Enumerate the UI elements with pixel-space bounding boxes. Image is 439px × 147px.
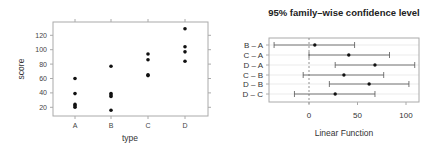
estimate-point bbox=[342, 73, 345, 76]
estimate-point bbox=[347, 53, 350, 56]
comparison-label: C – A bbox=[243, 51, 263, 60]
comparison-labels: B – AC – AD – AC – BD – BD – C bbox=[243, 41, 269, 99]
x-tick-label: 50 bbox=[353, 111, 362, 120]
estimate-point bbox=[367, 82, 370, 85]
interval-row bbox=[294, 91, 375, 97]
comparison-label: D – C bbox=[243, 90, 264, 99]
confidence-intervals bbox=[274, 42, 415, 97]
comparison-label: D – A bbox=[243, 61, 263, 70]
x-axis-title: Linear Function bbox=[315, 128, 374, 138]
x-tick-label: 100 bbox=[399, 111, 413, 120]
comparison-label: C – B bbox=[243, 71, 263, 80]
comparison-label: D – B bbox=[243, 80, 263, 89]
estimate-point bbox=[313, 43, 316, 46]
tukey-confidence-interval-chart: 95% family–wise confidence level B – AC … bbox=[0, 0, 439, 147]
interval-row bbox=[309, 52, 390, 58]
interval-row bbox=[274, 42, 355, 48]
gridlines bbox=[269, 45, 419, 94]
estimate-point bbox=[333, 92, 336, 95]
interval-row bbox=[329, 81, 409, 87]
interval-row bbox=[335, 62, 415, 68]
x-tick-label: 0 bbox=[307, 111, 312, 120]
figure: 20406080100120 ABCD score type 95% famil… bbox=[0, 0, 439, 147]
x-axis-ticks: 050100 bbox=[307, 102, 413, 120]
plot-frame bbox=[269, 38, 419, 102]
estimate-point bbox=[373, 63, 376, 66]
interval-row bbox=[303, 72, 384, 78]
chart-title: 95% family–wise confidence level bbox=[268, 7, 420, 18]
comparison-label: B – A bbox=[244, 41, 264, 50]
